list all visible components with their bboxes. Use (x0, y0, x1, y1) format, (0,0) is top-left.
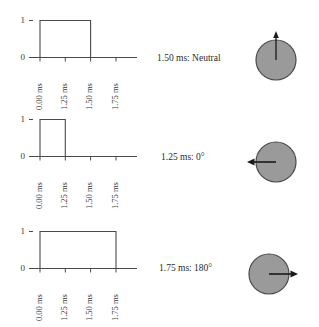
pulse-trace (32, 120, 137, 157)
servo-horn-zero-deg (239, 125, 313, 199)
pulse-trace (32, 232, 137, 269)
x-tick-label-0: 0.00 ms (35, 83, 44, 110)
pulse-waveform-svg-2 (0, 109, 150, 218)
y-tick-label-high: 1 (13, 115, 25, 124)
panel-caption: 1.50 ms: Neutral (157, 53, 221, 64)
servo-horn-svg-1 (239, 23, 313, 97)
servo-horn-neutral (239, 23, 313, 97)
panel-180-deg: 1 0 0.00 ms 1.25 ms 1.50 ms 1.75 ms 1.75… (0, 218, 319, 327)
y-tick-label-low: 0 (13, 264, 25, 273)
x-tick-label-0: 0.00 ms (35, 294, 44, 321)
panel-caption: 1.25 ms: 0° (161, 152, 205, 163)
servo-arm-arrowhead-icon (291, 271, 299, 278)
servo-pwm-figure: 1 0 0.00 ms 1.25 ms 1.50 ms 1.75 ms 1.50… (0, 0, 319, 327)
pulse-plot-2: 1 0 0.00 ms 1.25 ms 1.50 ms 1.75 ms (0, 109, 150, 218)
x-tick-label-2: 1.50 ms (85, 182, 94, 209)
panel-neutral: 1 0 0.00 ms 1.25 ms 1.50 ms 1.75 ms 1.50… (0, 0, 319, 109)
x-tick-label-1: 1.25 ms (60, 182, 69, 209)
x-tick-label-1: 1.25 ms (60, 294, 69, 321)
panel-zero-deg: 1 0 0.00 ms 1.25 ms 1.50 ms 1.75 ms 1.25… (0, 109, 319, 218)
x-tick-label-3: 1.75 ms (111, 182, 120, 209)
x-tick-label-3: 1.75 ms (111, 83, 120, 110)
servo-arm-arrowhead-icon (273, 31, 279, 38)
x-tick-label-2: 1.50 ms (85, 294, 94, 321)
panel-caption: 1.75 ms: 180° (159, 263, 212, 274)
y-tick-label-high: 1 (13, 227, 25, 236)
pulse-plot-3: 1 0 0.00 ms 1.25 ms 1.50 ms 1.75 ms (0, 218, 150, 327)
x-tick-label-3: 1.75 ms (111, 294, 120, 321)
pulse-plot-1: 1 0 0.00 ms 1.25 ms 1.50 ms 1.75 ms (0, 0, 150, 109)
servo-horn-180-deg (232, 237, 306, 311)
y-tick-label-low: 0 (13, 152, 25, 161)
servo-horn-svg-2 (239, 125, 313, 199)
x-tick-label-1: 1.25 ms (60, 83, 69, 110)
y-tick-label-high: 1 (13, 16, 25, 25)
x-tick-label-0: 0.00 ms (35, 182, 44, 209)
x-tick-label-2: 1.50 ms (85, 83, 94, 110)
pulse-trace (32, 21, 137, 58)
servo-arm-arrowhead-icon (247, 159, 255, 166)
servo-horn-svg-3 (232, 237, 306, 311)
y-tick-label-low: 0 (13, 53, 25, 62)
